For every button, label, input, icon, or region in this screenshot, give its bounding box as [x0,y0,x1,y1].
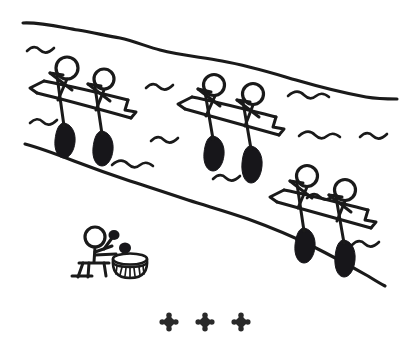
illustration-root: Paddlers in three canoes on a river with… [0,0,405,347]
illustration-background [0,0,405,347]
drum-lace [143,266,144,274]
paddle-blade [55,123,75,158]
drum-lace [134,268,135,276]
drum-lace [125,268,126,276]
drum-beater-knob [119,243,131,254]
drummer-arm [95,254,116,255]
drum-lace [139,267,140,275]
paddle-blade [335,240,355,277]
paddle-blade [242,146,262,183]
river-scene-illustration [0,0,405,347]
paddle-blade [295,228,315,263]
paddle-blade [93,131,113,166]
drumstick-knob [109,230,120,240]
drum-lace [116,266,117,274]
paddle-blade [204,136,224,171]
drummer-leg [104,263,106,276]
drum-beater [119,243,131,254]
